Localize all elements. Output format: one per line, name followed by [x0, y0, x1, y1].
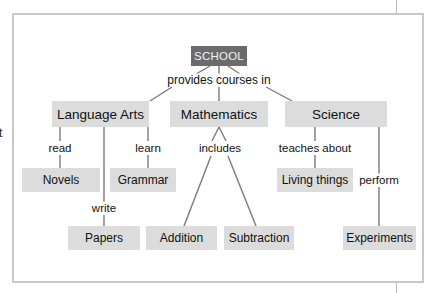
link-label-learn: learn	[134, 142, 162, 155]
link-label-includes: includes	[198, 142, 242, 155]
link-label-perform: perform	[358, 174, 400, 187]
node-papers[interactable]: Papers	[68, 226, 140, 250]
link-label-provides: provides courses in	[166, 74, 271, 87]
node-subtraction[interactable]: Subtraction	[224, 226, 294, 250]
node-mathematics[interactable]: Mathematics	[170, 101, 268, 127]
node-living-things[interactable]: Living things	[277, 168, 353, 192]
node-addition[interactable]: Addition	[146, 226, 217, 250]
node-language-arts[interactable]: Language Arts	[52, 101, 149, 127]
node-grammar[interactable]: Grammar	[110, 168, 176, 192]
link-label-teaches-about: teaches about	[278, 142, 352, 155]
link-label-read: read	[47, 142, 72, 155]
node-school[interactable]: SCHOOL	[191, 46, 247, 66]
link-label-write: write	[91, 202, 117, 215]
node-novels[interactable]: Novels	[22, 168, 100, 192]
node-experiments[interactable]: Experiments	[343, 226, 416, 250]
node-science[interactable]: Science	[285, 101, 387, 127]
